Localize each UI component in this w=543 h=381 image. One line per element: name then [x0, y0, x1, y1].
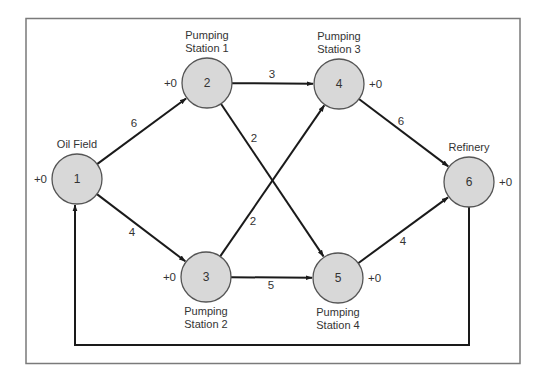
- edge-1-to-2: [97, 98, 186, 164]
- node-name-label: Station 4: [316, 319, 359, 331]
- node-name-label: Station 1: [185, 42, 228, 54]
- node-name-label: Pumping: [317, 30, 360, 42]
- node-number: 6: [466, 175, 473, 189]
- node-4: 4PumpingStation 3+0: [314, 30, 382, 109]
- node-number: 4: [336, 77, 343, 91]
- node-offset-label: +0: [368, 272, 381, 284]
- node-offset-label: +0: [163, 271, 176, 283]
- node-number: 5: [335, 271, 342, 285]
- edge-3-to-5: [231, 277, 312, 278]
- node-number: 2: [204, 76, 211, 90]
- edges-layer: 64322564: [75, 68, 469, 345]
- flow-network-diagram: 64322564 1Oil Field+02PumpingStation 1+0…: [0, 0, 543, 381]
- node-name-label: Oil Field: [57, 138, 97, 150]
- node-1: 1Oil Field+0: [34, 138, 102, 204]
- node-6: 6Refinery+0: [444, 141, 512, 207]
- node-name-label: Station 3: [317, 43, 360, 55]
- node-name-label: Station 2: [184, 318, 227, 330]
- edge-weight-label: 2: [251, 132, 257, 144]
- edge-weight-label: 3: [269, 68, 275, 80]
- edge-5-to-6: [358, 197, 448, 263]
- edge-4-to-6: [359, 99, 448, 166]
- edge-2-to-4: [232, 83, 313, 84]
- edge-weight-label: 2: [250, 215, 256, 227]
- node-5: 5PumpingStation 4+0: [313, 253, 381, 331]
- node-name-label: Pumping: [316, 306, 359, 318]
- node-2: 2PumpingStation 1+0: [164, 29, 232, 108]
- edge-weight-label: 5: [268, 279, 274, 291]
- node-offset-label: +0: [369, 78, 382, 90]
- node-offset-label: +0: [164, 77, 177, 89]
- node-name-label: Refinery: [449, 141, 490, 153]
- edge-weight-label: 4: [400, 235, 407, 247]
- node-number: 3: [203, 270, 210, 284]
- edge-1-to-3: [97, 194, 185, 261]
- node-name-label: Pumping: [185, 29, 228, 41]
- node-number: 1: [74, 172, 81, 186]
- edge-weight-label: 6: [131, 117, 137, 129]
- node-name-label: Pumping: [184, 305, 227, 317]
- node-3: 3PumpingStation 2+0: [163, 252, 231, 330]
- edge-weight-label: 6: [398, 115, 404, 127]
- edge-weight-label: 4: [129, 226, 136, 238]
- node-offset-label: +0: [499, 176, 512, 188]
- node-offset-label: +0: [34, 173, 47, 185]
